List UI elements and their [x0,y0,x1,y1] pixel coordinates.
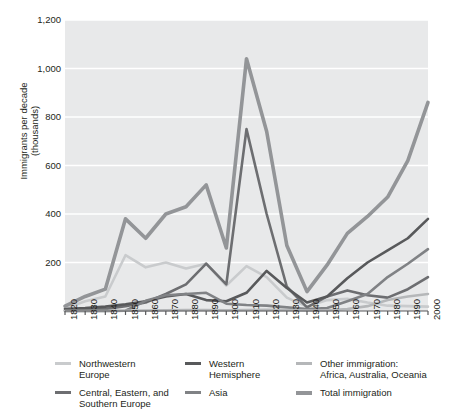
legend-label: Asia [209,387,290,398]
legend-column-2: Other immigration: Africa, Australia, Oc… [296,358,456,416]
x-axis-tick-label: 1870 [170,299,180,320]
legend-swatch-icon [55,391,71,394]
legend-item[interactable]: Central, Eastern, and Southern Europe [55,387,180,409]
x-axis-tick-label: 1860 [150,299,160,320]
x-axis-tick-label: 1960 [351,299,361,320]
x-axis-tick-label: 1900 [230,299,240,320]
x-axis-tick-label: 1930 [291,299,301,320]
legend-swatch-icon [296,391,312,395]
legend-swatch-icon [185,391,201,394]
x-axis-tick-label: 1830 [89,299,99,320]
legend-swatch-icon [185,362,201,365]
x-axis-tick-label: 2000 [432,299,442,320]
x-axis-tick-label: 1840 [109,299,119,320]
legend-column-1: Western HemisphereAsia [185,358,290,416]
legend-label: Other immigration: Africa, Australia, Oc… [320,358,456,380]
legend-label: Northwestern Europe [79,358,180,380]
x-axis-tick-label: 1850 [130,299,140,320]
legend-label: Total immigration [320,387,456,398]
legend-column-0: Northwestern EuropeCentral, Eastern, and… [55,358,180,416]
legend-item[interactable]: Asia [185,387,290,409]
chart-legend: Northwestern EuropeCentral, Eastern, and… [0,358,462,420]
x-axis-tick-labels: 1820183018401850186018701880189019001910… [0,0,462,360]
x-axis-tick-label: 1920 [271,299,281,320]
x-axis-tick-label: 1950 [331,299,341,320]
legend-item[interactable]: Other immigration: Africa, Australia, Oc… [296,358,456,380]
legend-item[interactable]: Western Hemisphere [185,358,290,380]
x-axis-tick-label: 1890 [210,299,220,320]
x-axis-tick-label: 1990 [412,299,422,320]
legend-label: Central, Eastern, and Southern Europe [79,387,180,409]
legend-item[interactable]: Total immigration [296,387,456,409]
legend-swatch-icon [55,362,71,365]
x-axis-tick-label: 1980 [392,299,402,320]
legend-swatch-icon [296,362,312,365]
legend-label: Western Hemisphere [209,358,290,380]
x-axis-tick-label: 1970 [372,299,382,320]
x-axis-tick-label: 1910 [251,299,261,320]
x-axis-tick-label: 1820 [69,299,79,320]
x-axis-tick-label: 1940 [311,299,321,320]
legend-item[interactable]: Northwestern Europe [55,358,180,380]
immigration-line-chart: Immigrants per decade (thousands) 1,2001… [0,0,462,420]
x-axis-tick-label: 1880 [190,299,200,320]
